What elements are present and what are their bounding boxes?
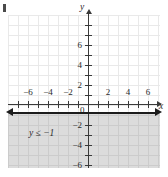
y-tick-mark <box>85 25 92 26</box>
y-axis-label: y <box>80 2 84 12</box>
boundary-line-right-arrow-icon <box>155 108 162 116</box>
shaded-region-below-boundary <box>8 112 160 168</box>
x-tick-mark <box>38 101 39 108</box>
y-tick-label-2: 2 <box>72 80 82 90</box>
y-axis-arrow-icon <box>86 9 92 14</box>
y-tick-mark <box>85 35 92 36</box>
origin-label: 0 <box>80 105 85 115</box>
x-tick-mark <box>148 101 149 108</box>
x-tick-label-neg6: −6 <box>23 87 33 97</box>
x-tick-mark <box>58 101 59 108</box>
boundary-line-left-arrow-icon <box>6 108 13 116</box>
y-tick-mark <box>85 125 92 126</box>
y-tick-mark <box>85 65 92 66</box>
y-tick-mark <box>85 75 92 76</box>
y-tick-label-neg6: −6 <box>68 160 82 170</box>
y-tick-mark <box>85 45 92 46</box>
coordinate-plane-graph: −6 −4 −2 2 4 6 6 4 2 −2 −4 −6 x y 0 y ≤ … <box>0 0 168 177</box>
y-tick-mark <box>85 95 92 96</box>
x-tick-mark <box>28 101 29 108</box>
x-tick-label-2: 2 <box>106 87 111 97</box>
x-tick-mark <box>108 101 109 108</box>
x-tick-mark <box>138 101 139 108</box>
x-tick-mark <box>68 101 69 108</box>
x-tick-mark <box>128 101 129 108</box>
corner-artifact-mark <box>3 4 6 12</box>
y-tick-label-6: 6 <box>72 40 82 50</box>
y-tick-label-neg2: −2 <box>68 120 82 130</box>
y-tick-label-4: 4 <box>72 60 82 70</box>
inequality-region-label: y ≤ −1 <box>29 128 54 138</box>
x-tick-mark <box>48 101 49 108</box>
y-tick-mark <box>85 135 92 136</box>
x-tick-label-4: 4 <box>126 87 131 97</box>
y-tick-mark <box>85 155 92 156</box>
y-tick-mark <box>85 165 92 166</box>
y-tick-mark <box>85 145 92 146</box>
x-tick-label-neg4: −4 <box>43 87 53 97</box>
x-tick-mark <box>98 101 99 108</box>
x-tick-label-6: 6 <box>146 87 151 97</box>
x-tick-mark <box>78 101 79 108</box>
y-tick-mark <box>85 85 92 86</box>
boundary-line <box>12 112 156 114</box>
x-tick-mark <box>18 101 19 108</box>
y-tick-label-neg4: −4 <box>68 140 82 150</box>
x-tick-mark <box>118 101 119 108</box>
y-tick-mark <box>85 55 92 56</box>
